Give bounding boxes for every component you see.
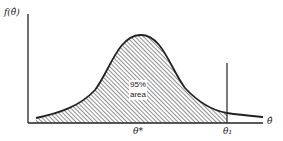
area-label: 95% area xyxy=(129,80,147,100)
x-axis-label: θ̂ xyxy=(267,117,272,126)
threshold-label: θ₁ xyxy=(223,127,232,136)
center-label: θ* xyxy=(133,127,143,136)
density-diagram xyxy=(0,0,283,141)
area-percent: 95% xyxy=(130,80,146,90)
area-word: area xyxy=(130,90,146,100)
y-axis-label: f(θ̂) xyxy=(4,8,20,17)
